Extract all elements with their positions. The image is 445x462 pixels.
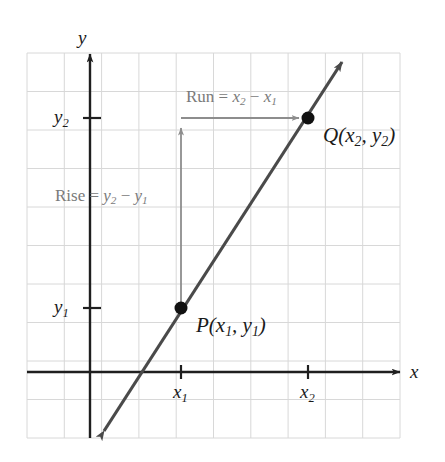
point-Q-label-mid: , y: [361, 123, 381, 147]
point-P-label: P(x1, y1): [196, 315, 266, 336]
point-P-label-head: P(x: [196, 313, 225, 337]
point-P-marker: [175, 302, 188, 315]
rise-annotation-var1: y: [103, 186, 111, 205]
y-tick-label-y1-sub: 1: [62, 306, 68, 320]
point-Q-label: Q(x2, y2): [323, 125, 395, 146]
rise-annotation-sub2: 1: [142, 194, 148, 206]
run-annotation-var1: x: [232, 87, 240, 106]
axis-tick-marks: [83, 118, 308, 379]
slope-diagram-figure: y x y2 y1 x1 x2 P(x1, y1) Q(x2, y2) Run …: [0, 0, 445, 462]
rise-annotation-var2: y: [135, 186, 143, 205]
run-annotation-prefix: Run =: [186, 87, 232, 106]
run-annotation-operator: −: [246, 87, 264, 106]
x-tick-label-x2: x2: [300, 382, 315, 401]
point-P-label-close: ): [259, 313, 266, 337]
rise-annotation-prefix: Rise =: [55, 186, 103, 205]
rise-annotation-operator: −: [116, 186, 134, 205]
point-P-label-sub2: 1: [252, 324, 259, 339]
x-tick-label-x1-sub: 1: [181, 391, 187, 405]
y-tick-label-y2-sub: 2: [62, 116, 68, 130]
y-axis-label: y: [78, 28, 86, 47]
x-tick-label-x2-sub: 2: [308, 391, 314, 405]
point-Q-label-head: Q(x: [323, 123, 354, 147]
point-Q-label-close: ): [388, 123, 395, 147]
coordinate-plane-canvas: [0, 0, 445, 462]
background-grid: [27, 53, 400, 438]
y-tick-label-y1: y1: [54, 297, 69, 316]
y-tick-label-y2: y2: [54, 107, 69, 126]
x-axis-label: x: [410, 362, 418, 381]
x-tick-label-x1: x1: [173, 382, 188, 401]
run-annotation-label: Run = x2 − x1: [186, 88, 277, 105]
rise-annotation-label: Rise = y2 − y1: [55, 187, 148, 204]
point-P-label-mid: , y: [232, 313, 252, 337]
run-annotation-sub2: 1: [271, 95, 277, 107]
point-Q-marker: [302, 112, 315, 125]
